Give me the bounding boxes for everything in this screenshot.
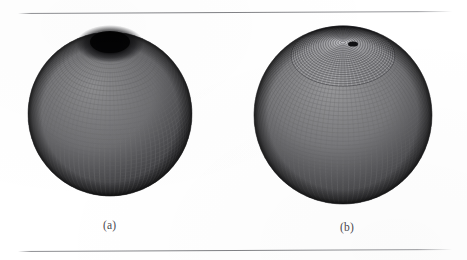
panel-b-caption: (b) <box>340 221 354 233</box>
sphere-mesh-a <box>8 16 218 216</box>
panel-a-caption: (a) <box>103 219 116 231</box>
horizontal-rule-top <box>18 11 452 14</box>
figure-panel-a: (a) <box>8 16 218 252</box>
sphere-b-svg <box>240 16 455 216</box>
figure-page: (a) (b) <box>0 0 467 260</box>
figure-panel-b: (b) <box>240 16 455 252</box>
sphere-a-svg <box>8 16 218 216</box>
sphere-mesh-b <box>240 16 455 216</box>
